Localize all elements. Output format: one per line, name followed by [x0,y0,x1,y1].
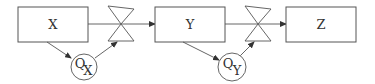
node-y: Y [155,7,225,42]
node-z-label: Z [316,17,325,32]
controller-qx: Q X [71,54,97,80]
node-x: X [18,7,88,42]
valve-2-icon [245,6,271,41]
node-z: Z [286,7,356,42]
signal-qx-to-valve1 [95,42,117,58]
node-y-label: Y [185,17,195,32]
signal-x-to-qx [47,42,71,58]
signal-qy-to-valve2 [240,42,254,56]
controller-qx-subscript: X [83,63,93,78]
valve-1-icon [108,6,134,41]
node-x-label: X [48,17,58,32]
process-flow-diagram: X Y Z Q X Q Y [0,0,375,84]
controller-qy: Q Y [218,53,246,81]
controller-qy-subscript: Y [232,63,242,78]
signal-y-to-qy [183,42,219,60]
